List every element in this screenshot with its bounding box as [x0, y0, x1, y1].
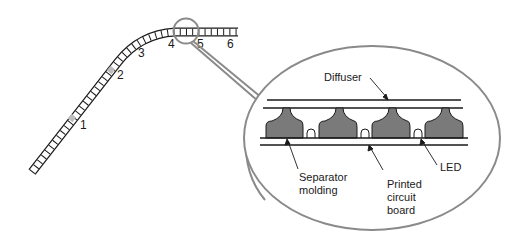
label-pcb-line2: circuit [387, 191, 416, 203]
position-label-3: 3 [138, 46, 145, 60]
label-pcb-line1: Printed [387, 178, 422, 190]
backlight-diagram: 1 2 3 4 5 6 [0, 0, 507, 236]
position-label-4: 4 [168, 37, 175, 51]
label-separator-line1: Separator [299, 171, 348, 183]
position-label-2: 2 [117, 68, 124, 82]
label-led: LED [440, 161, 461, 173]
label-diffuser: Diffuser [324, 71, 362, 83]
position-label-1: 1 [80, 118, 87, 132]
label-pcb-line3: board [387, 204, 415, 216]
position-label-6: 6 [227, 37, 234, 51]
label-separator-line2: molding [299, 184, 338, 196]
